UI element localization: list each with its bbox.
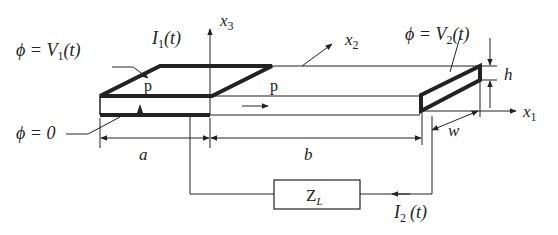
- h-label: h: [504, 65, 513, 84]
- p-label-right: p: [270, 77, 278, 95]
- x3-label: x3: [219, 11, 234, 33]
- top-electrode: [100, 66, 272, 96]
- polarization-up-arrow: [137, 104, 143, 113]
- phi-0-leader: [66, 117, 120, 134]
- h-dimension: [480, 38, 497, 108]
- x2-label: x2: [344, 30, 359, 52]
- phi-v2-label: ϕ = V2(t): [405, 24, 469, 47]
- b-label: b: [304, 145, 313, 164]
- w-label: w: [448, 121, 460, 140]
- piezoelectric-plate-diagram: ϕ = V1(t) I1(t) x3 x2 ϕ = V2(t) h x1 ϕ =…: [0, 0, 558, 235]
- x2-axis: [302, 44, 332, 66]
- phi-0-label: ϕ = 0: [16, 123, 55, 143]
- i1-label: I1(t): [151, 28, 181, 51]
- i2-label: I2(t): [393, 202, 427, 225]
- x1-label: x1: [522, 102, 537, 124]
- phi-v1-label: ϕ = V1(t): [16, 40, 80, 63]
- a-label: a: [139, 145, 148, 164]
- p-label-left: p: [144, 77, 152, 95]
- right-electrode: [421, 66, 480, 111]
